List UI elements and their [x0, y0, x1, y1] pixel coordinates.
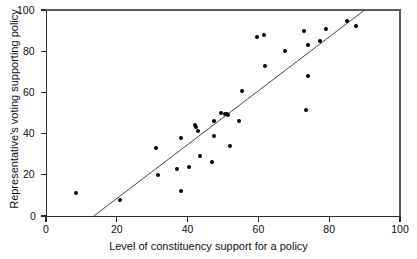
x-axis-tick-label: 40 — [182, 223, 194, 235]
x-axis-tick — [329, 217, 330, 222]
data-point — [154, 146, 158, 150]
y-axis-title: Representative's voting supporting polic… — [8, 0, 20, 219]
data-point — [255, 35, 259, 39]
data-point — [156, 173, 160, 177]
data-point — [179, 136, 183, 140]
data-point — [306, 43, 310, 47]
x-axis-tick-label: 80 — [323, 223, 335, 235]
right-axis-spine — [399, 9, 401, 216]
y-axis-tick-label: 0 — [30, 210, 36, 222]
data-point — [175, 167, 179, 171]
data-point — [228, 144, 232, 148]
x-axis-tick — [45, 217, 46, 222]
x-axis-tick-label: 60 — [253, 223, 265, 235]
data-point — [179, 189, 183, 193]
y-axis-tick-label: 20 — [23, 168, 35, 180]
y-axis-title-wrap: Representative's voting supporting polic… — [0, 0, 18, 226]
x-axis-tick — [258, 217, 259, 222]
x-axis-tick — [116, 217, 117, 222]
x-axis-tick — [187, 217, 188, 222]
y-axis-tick — [41, 92, 46, 93]
y-axis-tick — [41, 51, 46, 52]
x-axis-tick-label: 20 — [111, 223, 123, 235]
data-point — [196, 129, 200, 133]
x-axis-tick-label: 0 — [43, 223, 49, 235]
y-axis-tick — [41, 133, 46, 134]
data-point — [306, 74, 310, 78]
data-point — [262, 33, 266, 37]
data-point — [187, 165, 191, 169]
y-axis-tick-label: 80 — [23, 45, 35, 57]
data-point — [212, 134, 216, 138]
x-axis-title: Level of constituency support for a poli… — [0, 240, 417, 252]
y-axis-tick — [41, 9, 46, 10]
top-axis-spine — [46, 9, 400, 11]
y-axis-tick-label: 60 — [23, 86, 35, 98]
data-point — [324, 27, 328, 31]
y-axis-tick — [41, 174, 46, 175]
x-axis-tick-label: 100 — [391, 223, 409, 235]
x-axis-tick — [399, 217, 400, 222]
data-point — [118, 198, 122, 202]
y-axis-tick-label: 40 — [23, 127, 35, 139]
scatter-plot-figure: 020406080100 020406080100 Representative… — [0, 0, 417, 259]
